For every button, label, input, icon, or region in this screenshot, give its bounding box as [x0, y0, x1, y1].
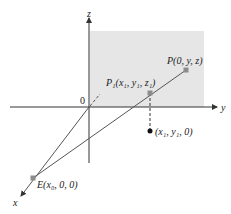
perspective-projection-diagram: z y x 0 P(0, y, z) P₁(x₁, y₁, z₁) E(x₀, …	[0, 0, 231, 214]
projected-point-label: (x₁, y₁, 0)	[155, 126, 193, 138]
point-P-marker	[184, 68, 189, 73]
projected-point-marker	[148, 129, 153, 134]
point-E-marker	[31, 176, 36, 181]
point-P1-label: P₁(x₁, y₁, z₁)	[105, 77, 156, 89]
z-axis-label: z	[86, 8, 91, 19]
y-axis-label: y	[220, 102, 226, 113]
point-P1-marker	[148, 91, 153, 96]
origin-label: 0	[80, 95, 85, 106]
point-E-label: E(x₀, 0, 0)	[36, 179, 78, 191]
point-P-label: P(0, y, z)	[166, 55, 203, 67]
diagram-canvas: z y x 0 P(0, y, z) P₁(x₁, y₁, z₁) E(x₀, …	[0, 0, 231, 214]
x-axis-label: x	[12, 197, 18, 208]
